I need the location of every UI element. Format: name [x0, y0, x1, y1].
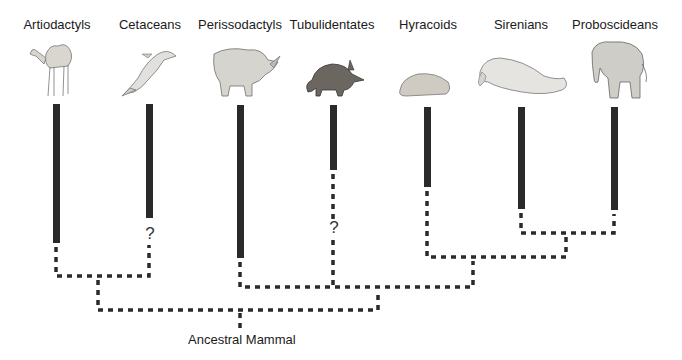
phylogenetic-tree — [0, 0, 682, 360]
branch-hyracoids-clade — [427, 191, 566, 257]
lineage-bar-tubulidentates — [330, 105, 337, 170]
lineage-bar-sirenians — [518, 107, 525, 209]
uncertain-marker-tubulidentates: ? — [329, 218, 338, 238]
root-label: Ancestral Mammal — [188, 332, 296, 347]
lineage-bar-cetaceans — [146, 104, 153, 218]
lineage-bar-proboscideans — [611, 107, 618, 210]
branch-artiodactyls-cetaceans — [56, 245, 149, 276]
uncertain-marker-cetaceans: ? — [145, 224, 154, 244]
lineage-bar-hyracoids — [424, 107, 431, 187]
lineage-bar-perissodactyls — [237, 105, 244, 258]
lineage-bar-artiodactyls — [53, 104, 60, 243]
branch-perissodactyls-clade — [240, 261, 473, 287]
branch-sirenians-proboscideans — [521, 213, 614, 233]
branch-root-horizontal — [98, 280, 378, 310]
